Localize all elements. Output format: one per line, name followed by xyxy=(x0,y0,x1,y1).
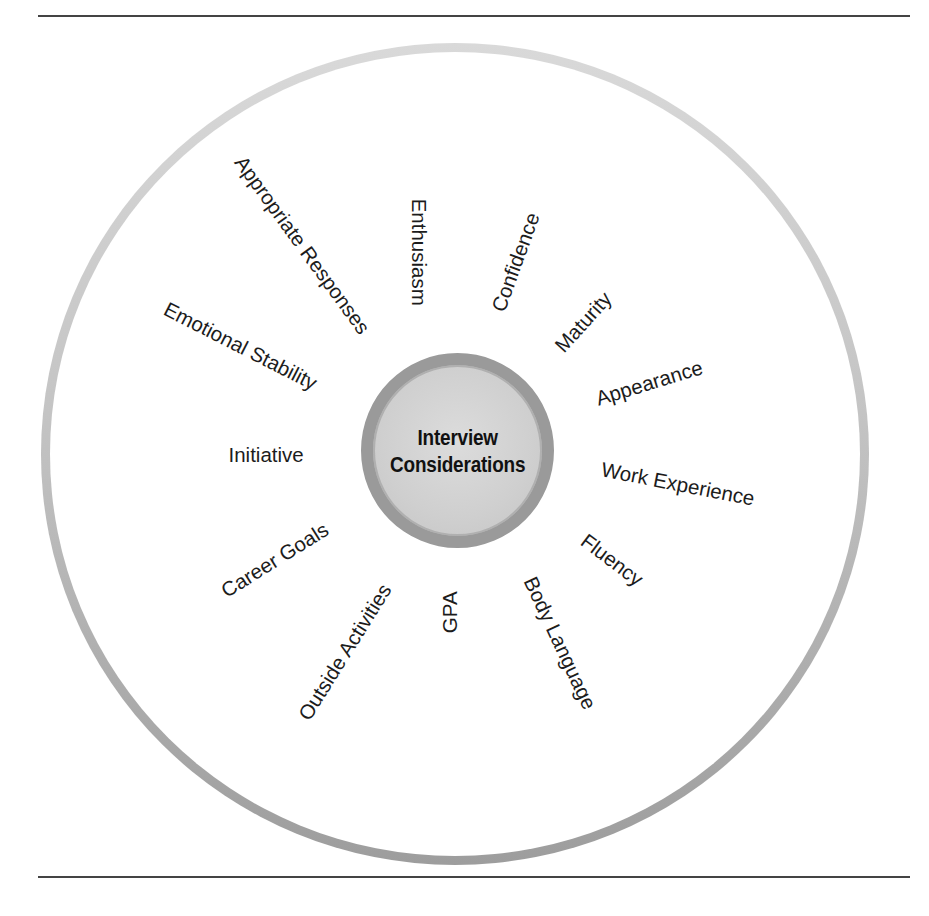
factor-gpa: GPA xyxy=(440,591,461,633)
factor-enthusiasm: Enthusiasm xyxy=(408,198,429,305)
hub-title: Interview Considerations xyxy=(390,424,525,478)
figure-caption-clipped xyxy=(40,0,900,3)
hub-title-line2: Considerations xyxy=(390,451,525,478)
top-rule xyxy=(38,15,910,17)
hub-title-line1: Interview xyxy=(390,424,525,451)
factor-initiative: Initiative xyxy=(229,445,304,466)
bottom-rule xyxy=(38,876,910,878)
hub-circle: Interview Considerations xyxy=(361,353,554,548)
